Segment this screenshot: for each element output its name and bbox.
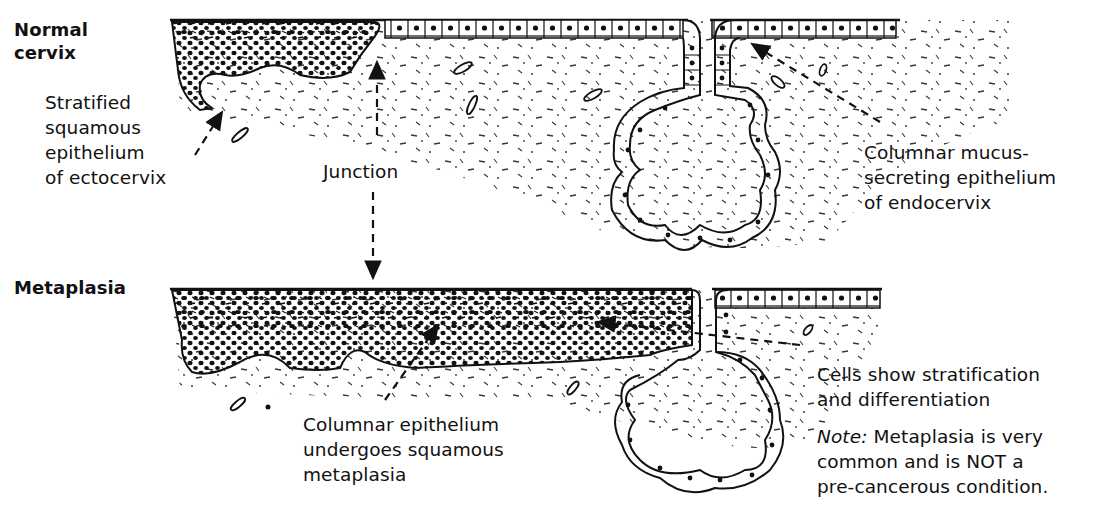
panel-title-normal-cervix: Normal cervix xyxy=(14,18,88,64)
note-line-1: Note: Metaplasia is very xyxy=(817,424,1048,449)
metaplasia-section xyxy=(170,289,882,492)
label-stratified-squamous: Stratified squamous epithelium of ectoce… xyxy=(45,90,166,190)
label-columnar-mucus: Columnar mucus- secreting epithelium of … xyxy=(864,140,1056,215)
label-cells-show-stratification: Cells show stratification and differenti… xyxy=(817,362,1040,412)
label-junction: Junction xyxy=(323,160,398,184)
arrow-stratified xyxy=(195,112,222,155)
label-note: Note: Metaplasia is very common and is N… xyxy=(817,424,1048,499)
normal-cervix-section xyxy=(170,20,1010,250)
label-columnar-undergoes: Columnar epithelium undergoes squamous m… xyxy=(303,412,504,487)
panel-title-metaplasia: Metaplasia xyxy=(14,276,126,299)
